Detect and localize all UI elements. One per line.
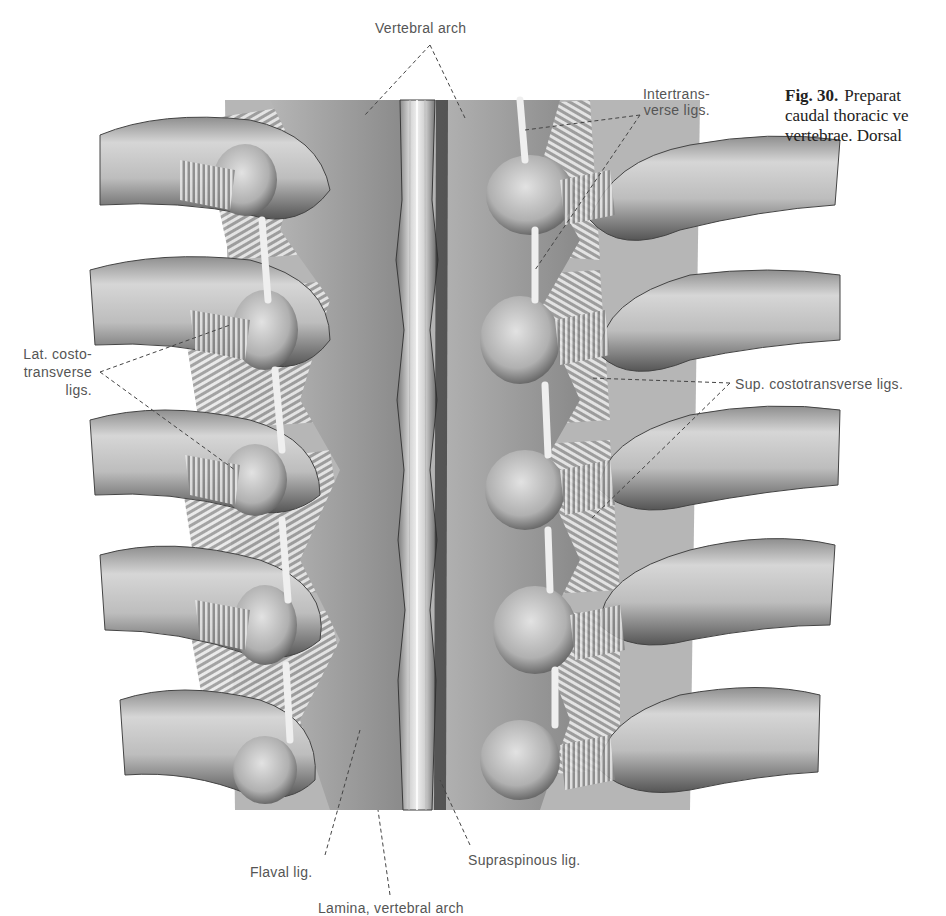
label-sup-costotransverse-ligs: Sup. costotransverse ligs. xyxy=(735,376,903,392)
caption-line-2: caudal thoracic ve xyxy=(785,106,909,126)
figure-caption: Fig. 30.Preparat caudal thoracic ve vert… xyxy=(785,86,909,146)
label-intertransverse-line2: verse ligs. xyxy=(642,102,710,118)
label-flaval-lig: Flaval lig. xyxy=(250,864,312,880)
label-lat-costotransverse-ligs: Lat. costo- transverse ligs. xyxy=(0,345,92,399)
label-supraspinous-lig: Supraspinous lig. xyxy=(468,852,581,868)
label-lat-costo-line2: transverse xyxy=(0,363,92,381)
label-intertransverse-ligs: Intertrans- verse ligs. xyxy=(642,86,710,118)
label-vertebral-arch: Vertebral arch xyxy=(375,20,466,36)
label-intertransverse-line1: Intertrans- xyxy=(642,86,710,102)
label-lat-costo-line1: Lat. costo- xyxy=(0,345,92,363)
caption-text-1: Preparat xyxy=(844,86,901,105)
figure-number: Fig. 30. xyxy=(785,86,838,105)
label-lamina-vertebral-arch: Lamina, vertebral arch xyxy=(318,900,464,916)
caption-line-3: vertebrae. Dorsal xyxy=(785,126,909,146)
supraspinous-column xyxy=(396,100,438,810)
caption-line-1: Fig. 30.Preparat xyxy=(785,86,909,106)
label-lat-costo-line3: ligs. xyxy=(0,381,92,399)
